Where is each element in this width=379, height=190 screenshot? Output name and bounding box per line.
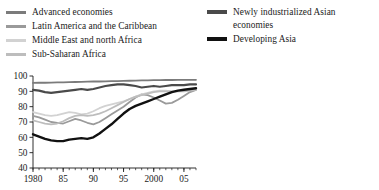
y-tick-label: 60	[18, 133, 28, 143]
y-tick-label: 40	[18, 163, 28, 173]
y-tick-label: 80	[18, 102, 28, 112]
x-tick-label: 1980	[24, 174, 43, 184]
legend-column-right: Newly industrialized Asian economies Dev…	[207, 6, 379, 47]
legend-swatch-advanced-economies	[6, 11, 26, 14]
legend-swatch-sub-saharan-africa	[6, 53, 26, 56]
y-tick-label: 50	[18, 148, 28, 158]
data-series-group	[33, 80, 196, 141]
data-line	[33, 80, 196, 83]
x-tick-label: 85	[59, 174, 69, 184]
legend-item-label: Advanced economies	[32, 6, 113, 19]
x-axis: 1980859095200005	[24, 168, 196, 184]
legend-item-label: Developing Asia	[233, 33, 296, 46]
legend-item-label: Sub-Saharan Africa	[32, 48, 106, 61]
y-tick-label: 100	[14, 71, 28, 81]
chart-legend: Advanced economies Latin America and the…	[0, 0, 379, 62]
y-axis: 405060708090100	[14, 71, 33, 173]
x-tick-label: 95	[119, 174, 129, 184]
legend-item: Latin America and the Caribbean	[6, 20, 206, 33]
chart-plot-area: 405060708090100 1980859095200005	[0, 62, 379, 190]
x-tick-label: 2000	[144, 174, 163, 184]
figure-root: Advanced economies Latin America and the…	[0, 0, 379, 190]
x-tick-label: 90	[89, 174, 99, 184]
legend-item: Middle East and north Africa	[6, 34, 206, 47]
legend-swatch-latin-america	[6, 25, 26, 28]
legend-item: Advanced economies	[6, 6, 206, 19]
legend-swatch-middle-east	[6, 39, 26, 42]
legend-item: Developing Asia	[207, 33, 379, 46]
x-tick-label: 05	[179, 174, 189, 184]
legend-swatch-developing-asia	[207, 37, 227, 41]
legend-item: Sub-Saharan Africa	[6, 48, 206, 61]
legend-item: Newly industrialized Asian economies	[207, 6, 379, 31]
data-line	[33, 90, 196, 125]
legend-item-label: Newly industrialized Asian economies	[233, 6, 336, 31]
legend-item-label: Latin America and the Caribbean	[32, 20, 157, 33]
legend-column-left: Advanced economies Latin America and the…	[6, 6, 206, 62]
legend-swatch-newly-industrialized-asian	[207, 10, 227, 14]
y-tick-label: 90	[18, 87, 28, 97]
y-tick-label: 70	[18, 117, 28, 127]
legend-item-label: Middle East and north Africa	[32, 34, 142, 47]
line-chart-svg: 405060708090100 1980859095200005	[0, 62, 379, 190]
